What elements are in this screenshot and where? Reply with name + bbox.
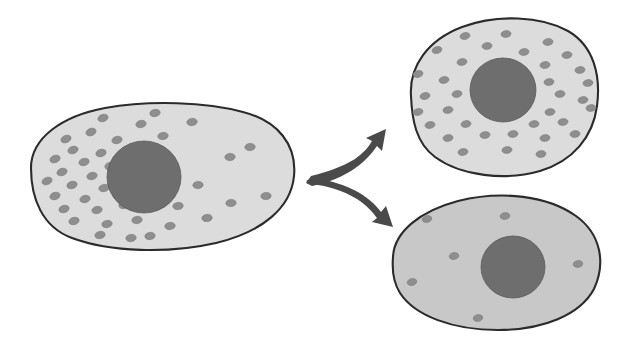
daughter-cell-granule-rich-nucleus (470, 58, 536, 122)
daughter-cell-granule-poor-nucleus (481, 236, 545, 298)
diagram-canvas (0, 0, 629, 348)
parent-cell (31, 103, 294, 250)
daughter-cell-granule-rich (411, 18, 598, 176)
parent-cell-nucleus (107, 141, 181, 213)
cell-differentiation-figure (0, 0, 629, 348)
daughter-cell-granule-poor (393, 196, 601, 330)
